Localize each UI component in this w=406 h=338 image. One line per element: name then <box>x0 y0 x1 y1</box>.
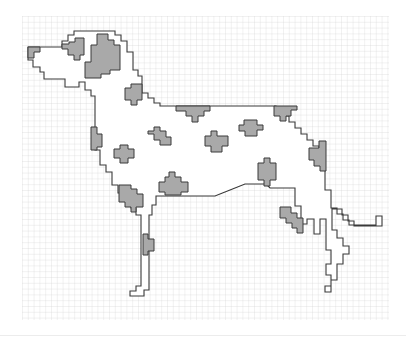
bottom-divider <box>0 335 406 336</box>
dalmatian-grid-drawing <box>0 0 406 338</box>
